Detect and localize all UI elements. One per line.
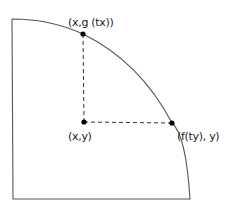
label-right-point: (f(ty), y) <box>177 130 219 143</box>
point-center <box>81 119 86 124</box>
point-right <box>169 120 174 125</box>
diagram-canvas: (x,g (tx)) (x,y) (f(ty), y) <box>0 0 233 208</box>
label-top-point: (x,g (tx)) <box>68 16 113 29</box>
dashed-horizontal-line <box>84 122 172 123</box>
label-center-point: (x,y) <box>68 130 92 143</box>
region-outline <box>12 19 190 199</box>
dashed-vertical-line <box>83 34 84 122</box>
point-top <box>80 31 85 36</box>
